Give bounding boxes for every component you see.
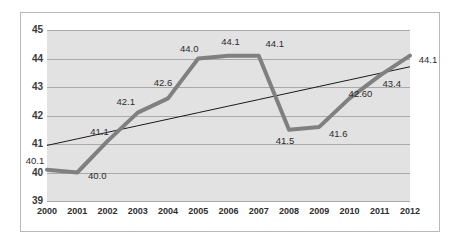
x-axis: 2000200120022003200420052006200720082009… — [0, 0, 463, 245]
x-tick-2003: 2003 — [128, 206, 148, 216]
x-tick-2007: 2007 — [249, 206, 269, 216]
x-tick-2004: 2004 — [158, 206, 178, 216]
x-tick-2008: 2008 — [279, 206, 299, 216]
x-tick-2005: 2005 — [188, 206, 208, 216]
x-tick-2011: 2011 — [370, 206, 390, 216]
x-tick-2001: 2001 — [67, 206, 87, 216]
x-tick-2009: 2009 — [309, 206, 329, 216]
x-tick-2006: 2006 — [218, 206, 238, 216]
x-tick-2012: 2012 — [400, 206, 420, 216]
x-tick-2002: 2002 — [97, 206, 117, 216]
chart-plot-wrapper: 45 44 43 42 41 40 39 40.140.041.142.142.… — [0, 0, 463, 245]
x-tick-2010: 2010 — [339, 206, 359, 216]
x-tick-2000: 2000 — [37, 206, 57, 216]
